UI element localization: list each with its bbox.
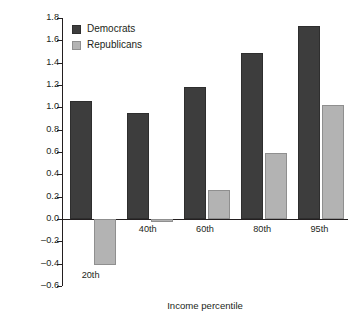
- x-axis-category-label: 60th: [176, 225, 233, 234]
- bar-republicans-60th: [208, 190, 230, 219]
- bar-republicans-40th: [151, 219, 173, 222]
- y-axis-tick-label: 1.2: [46, 80, 59, 89]
- bar-democrats-95th: [298, 26, 320, 219]
- bar-democrats-60th: [184, 87, 206, 219]
- y-axis-tick-label: 1.6: [46, 36, 59, 45]
- y-axis-tick-label: –0.4: [41, 259, 59, 268]
- bar-republicans-20th: [94, 219, 116, 265]
- y-axis-tick-label: 0.0: [46, 214, 59, 223]
- bar-democrats-20th: [70, 101, 92, 219]
- x-axis-category-label: 20th: [62, 271, 119, 280]
- bar-chart: Average annual growth rate (%) 1.81.61.4…: [0, 0, 364, 326]
- legend-label: Democrats: [87, 24, 135, 34]
- y-axis-tick-label: 1.4: [46, 58, 59, 67]
- legend-label: Republicans: [87, 40, 142, 50]
- legend-swatch-icon: [72, 25, 81, 34]
- bar-democrats-40th: [127, 113, 149, 219]
- y-axis-tick-label: 1.8: [46, 13, 59, 22]
- y-axis-tick-label: –0.6: [41, 281, 59, 290]
- y-axis-tick-label: 0.2: [46, 192, 59, 201]
- legend-item-democrats: Democrats: [72, 22, 142, 36]
- x-axis-category-label: 40th: [119, 225, 176, 234]
- plot-area: 1.81.61.41.21.00.80.60.40.20.0–0.2–0.4–0…: [62, 18, 348, 286]
- x-axis-category-label: 95th: [291, 225, 348, 234]
- x-axis-title: Income percentile: [62, 300, 348, 311]
- legend-swatch-icon: [72, 41, 81, 50]
- y-axis-tick-label: 1.0: [46, 103, 59, 112]
- y-axis-tick-label: 0.6: [46, 147, 59, 156]
- y-axis-spine: [62, 18, 63, 286]
- y-axis-tick-label: –0.2: [41, 237, 59, 246]
- x-axis-category-label: 80th: [234, 225, 291, 234]
- y-axis-title-text: Average annual growth rate (%): [0, 97, 36, 228]
- bar-republicans-95th: [322, 105, 344, 219]
- bar-republicans-80th: [265, 153, 287, 219]
- y-axis-tick-label: 0.8: [46, 125, 59, 134]
- chart-legend: DemocratsRepublicans: [72, 22, 142, 54]
- y-axis-tick-label: 0.4: [46, 170, 59, 179]
- y-axis-title: Average annual growth rate (%): [0, 0, 20, 326]
- legend-item-republicans: Republicans: [72, 38, 142, 52]
- bar-democrats-80th: [241, 53, 263, 219]
